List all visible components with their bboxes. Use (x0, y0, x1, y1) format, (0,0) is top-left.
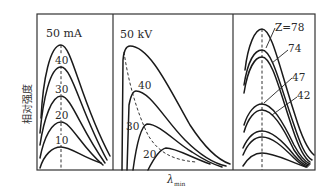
label-20: 20 (55, 109, 68, 121)
label-50kv: 50 kV (120, 28, 153, 41)
peak-locus-dashed (124, 52, 196, 162)
xray-spectrum-figure: 相对强度 50 mA 40 30 20 10 (0, 0, 332, 193)
label-74: 74 (288, 42, 302, 54)
label-10: 10 (55, 134, 68, 146)
curve-20ma (40, 122, 103, 165)
label-47: 47 (292, 71, 305, 83)
label-50ma: 50 mA (46, 27, 83, 40)
panel-current: 50 mA 40 30 20 10 (40, 27, 110, 170)
leader-74 (272, 50, 288, 63)
label-30: 30 (126, 120, 139, 132)
x-axis-label-subscript: min (174, 180, 186, 187)
panel-voltage: 50 kV 40 30 20 λ min (120, 28, 230, 187)
curve-10ma (40, 147, 101, 168)
label-40: 40 (138, 79, 151, 91)
label-40: 40 (55, 54, 68, 66)
label-30: 30 (55, 83, 68, 95)
curve-50ma (41, 45, 110, 156)
x-axis-label: λ (166, 173, 174, 185)
label-20: 20 (143, 148, 156, 160)
y-axis-label: 相对强度 (21, 84, 33, 124)
curve-50kv (122, 46, 230, 170)
curve-40ma (40, 67, 107, 160)
leader-42 (272, 97, 297, 115)
label-42: 42 (297, 89, 310, 101)
panel-atomic-number: Z=78 74 47 42 (243, 21, 314, 170)
label-z78: Z=78 (275, 21, 304, 33)
